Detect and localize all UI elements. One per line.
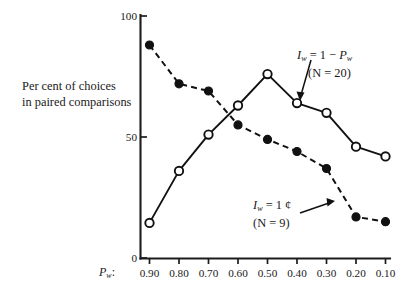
data-point bbox=[323, 165, 331, 173]
annotation-upper-operator: = 1 − bbox=[307, 48, 340, 62]
data-point bbox=[381, 152, 389, 160]
y-axis-label-line-1: Per cent of choices bbox=[22, 79, 116, 93]
chart-plot-area: 100 50 0 0.90 0.80 0.70 0.60 0.50 0.40 0… bbox=[0, 0, 403, 290]
data-point bbox=[264, 135, 272, 143]
data-point bbox=[293, 148, 301, 156]
data-point bbox=[175, 167, 183, 175]
data-point bbox=[352, 143, 360, 151]
annotation-upper: Iw = 1 − Pw (N = 20) bbox=[297, 48, 352, 82]
data-point bbox=[234, 101, 242, 109]
annotation-lower-value: = 1 ¢ bbox=[263, 198, 292, 212]
x-tick-label-2: 0.70 bbox=[199, 267, 219, 279]
x-tick-label-8: 0.10 bbox=[376, 267, 396, 279]
x-tick-label-5: 0.40 bbox=[287, 267, 307, 279]
x-tick-label-group: 0.90 0.80 0.70 0.60 0.50 0.40 0.30 0.20 … bbox=[140, 267, 396, 279]
data-point bbox=[322, 109, 330, 117]
data-point bbox=[234, 121, 242, 129]
data-point bbox=[382, 218, 390, 226]
y-axis-label-line-2: in paired comparisons bbox=[22, 95, 131, 109]
x-axis-label: Pw: bbox=[99, 265, 115, 280]
data-point bbox=[205, 87, 213, 95]
data-point bbox=[204, 130, 212, 138]
x-tick-label-3: 0.60 bbox=[228, 267, 248, 279]
annotation-upper-pw-sub: w bbox=[347, 54, 352, 63]
annotation-upper-pw: P bbox=[339, 48, 347, 62]
annotation-upper-line-2: (N = 20) bbox=[308, 66, 352, 82]
data-point bbox=[146, 41, 154, 49]
x-tick-label-4: 0.50 bbox=[258, 267, 278, 279]
y-tick-label-100: 100 bbox=[120, 10, 137, 22]
chart-figure: 100 50 0 0.90 0.80 0.70 0.60 0.50 0.40 0… bbox=[0, 0, 403, 290]
data-point bbox=[145, 219, 153, 227]
annotation-lower: Iw = 1 ¢ (N = 9) bbox=[253, 198, 291, 232]
x-tick-label-6: 0.30 bbox=[317, 267, 337, 279]
annotation-lower-leader bbox=[300, 198, 335, 213]
data-point bbox=[175, 80, 183, 88]
y-tick-label-50: 50 bbox=[126, 131, 138, 143]
annotation-lower-line-2: (N = 9) bbox=[253, 216, 291, 232]
x-tick-label-1: 0.80 bbox=[169, 267, 189, 279]
annotation-upper-line-1: Iw = 1 − Pw bbox=[297, 48, 352, 62]
data-point bbox=[263, 70, 271, 78]
x-tick-label-0: 0.90 bbox=[140, 267, 160, 279]
y-axis-label: Per cent of choices in paired comparison… bbox=[22, 78, 131, 110]
data-point bbox=[352, 213, 360, 221]
x-axis-label-var: Pw bbox=[99, 265, 112, 279]
x-axis-label-colon: : bbox=[112, 265, 115, 279]
y-tick-label-0: 0 bbox=[131, 252, 137, 264]
x-tick-label-7: 0.20 bbox=[346, 267, 366, 279]
annotation-lower-line-1: Iw = 1 ¢ bbox=[253, 198, 291, 212]
